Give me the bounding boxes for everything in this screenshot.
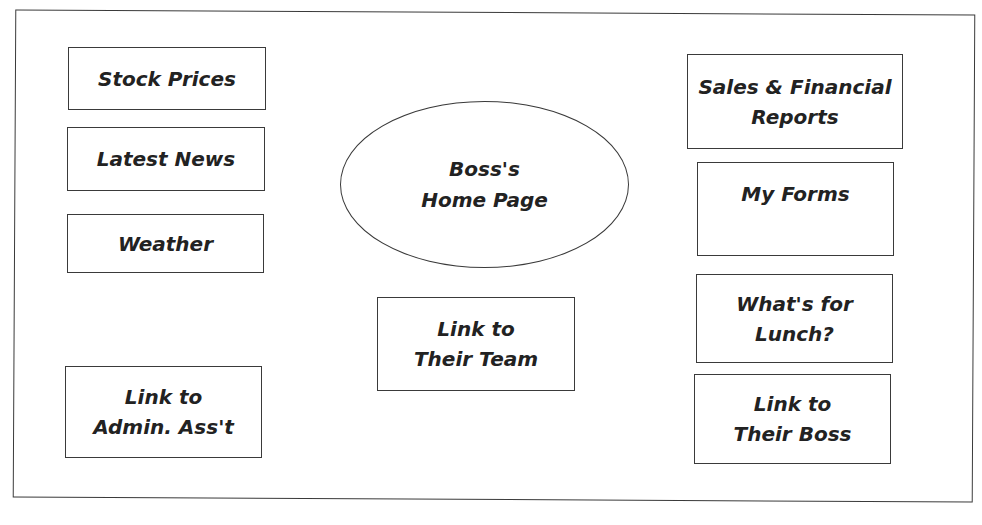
admin-assistant-link-line-2: Admin. Ass't: [93, 412, 234, 442]
boss-link-box[interactable]: Link to Their Boss: [694, 374, 891, 464]
sales-financial-reports-line-2: Reports: [751, 102, 838, 132]
team-link-line-1: Link to: [437, 314, 514, 344]
sales-financial-reports-box[interactable]: Sales & Financial Reports: [687, 54, 903, 149]
stock-prices-box[interactable]: Stock Prices: [68, 47, 266, 110]
admin-assistant-link-line-1: Link to: [125, 382, 202, 412]
weather-box[interactable]: Weather: [67, 214, 264, 273]
boss-home-page-node[interactable]: Boss's Home Page: [340, 101, 629, 268]
boss-link-line-2: Their Boss: [734, 419, 852, 449]
team-link-line-2: Their Team: [414, 344, 538, 374]
whats-for-lunch-box[interactable]: What's for Lunch?: [696, 274, 893, 363]
admin-assistant-link-box[interactable]: Link to Admin. Ass't: [65, 366, 262, 458]
boss-link-line-1: Link to: [754, 389, 831, 419]
latest-news-box[interactable]: Latest News: [67, 127, 265, 191]
stock-prices-label: Stock Prices: [98, 64, 236, 94]
latest-news-label: Latest News: [97, 144, 235, 174]
my-forms-label: My Forms: [741, 179, 849, 209]
weather-label: Weather: [118, 229, 213, 259]
my-forms-box[interactable]: My Forms: [697, 162, 894, 256]
boss-home-page-line-1: Boss's: [449, 154, 520, 185]
boss-home-page-line-2: Home Page: [421, 185, 548, 216]
whats-for-lunch-line-1: What's for: [736, 289, 853, 319]
whats-for-lunch-line-2: Lunch?: [755, 319, 834, 349]
team-link-box[interactable]: Link to Their Team: [377, 297, 575, 391]
sales-financial-reports-line-1: Sales & Financial: [698, 72, 891, 102]
